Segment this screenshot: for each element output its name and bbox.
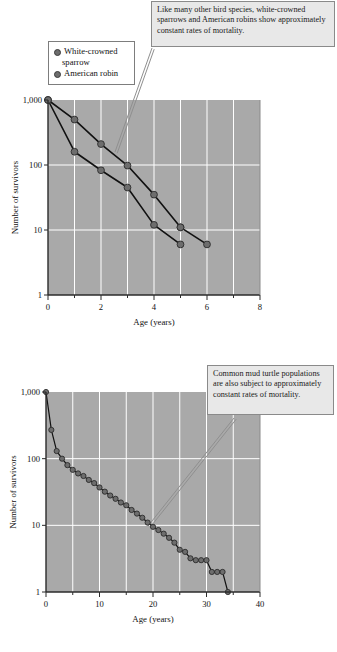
legend-dot-icon xyxy=(54,49,61,56)
svg-text:10: 10 xyxy=(31,520,40,530)
survivorship-figure: Like many other bird species, white-crow… xyxy=(0,0,337,652)
svg-text:Age (years): Age (years) xyxy=(132,614,173,624)
svg-text:10: 10 xyxy=(33,225,42,235)
svg-text:Age (years): Age (years) xyxy=(133,317,174,327)
annotation-birds: Like many other bird species, white-crow… xyxy=(151,1,335,47)
svg-text:1,000: 1,000 xyxy=(23,95,42,105)
chart-bottom-turtle: Common mud turtle populations are also s… xyxy=(0,330,337,652)
legend-dot-icon xyxy=(54,71,61,78)
svg-text:10: 10 xyxy=(95,599,104,609)
svg-text:1: 1 xyxy=(38,290,42,300)
svg-text:8: 8 xyxy=(258,302,262,312)
legend-label-sparrow-line2: sparrow xyxy=(54,57,129,68)
legend-birds: White-crowned sparrow American robin xyxy=(48,41,135,85)
svg-text:2: 2 xyxy=(99,302,103,312)
legend-label-sparrow-line1: White-crowned xyxy=(64,46,117,57)
svg-text:20: 20 xyxy=(149,599,158,609)
legend-item-american-robin: American robin xyxy=(54,68,129,79)
svg-text:0: 0 xyxy=(46,302,50,312)
legend-item-white-crowned-sparrow: White-crowned xyxy=(54,46,129,57)
svg-text:Number of survivors: Number of survivors xyxy=(8,455,18,529)
svg-text:100: 100 xyxy=(29,160,42,170)
chart-top-birds: Like many other bird species, white-crow… xyxy=(0,0,337,330)
svg-text:100: 100 xyxy=(27,454,40,464)
svg-text:0: 0 xyxy=(44,599,48,609)
legend-label-robin: American robin xyxy=(64,68,118,79)
svg-text:Number of survivors: Number of survivors xyxy=(10,160,20,234)
svg-text:1: 1 xyxy=(36,587,40,597)
svg-text:4: 4 xyxy=(152,302,157,312)
svg-text:30: 30 xyxy=(202,599,211,609)
annotation-turtle: Common mud turtle populations are also s… xyxy=(207,365,334,415)
svg-text:6: 6 xyxy=(205,302,210,312)
svg-text:40: 40 xyxy=(256,599,265,609)
svg-text:1,000: 1,000 xyxy=(21,387,40,397)
